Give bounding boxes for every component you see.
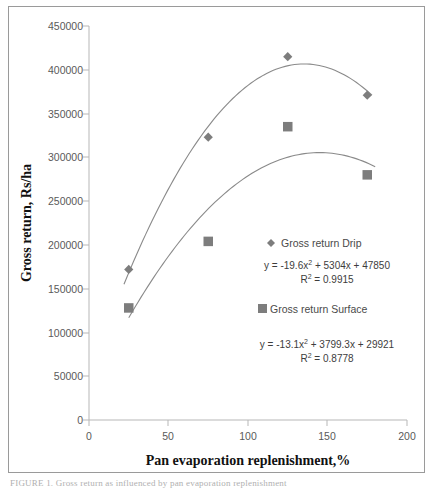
y-tick-100000: 100000 [48,327,83,339]
legend-label-surface: Gross return Surface [270,303,368,315]
y-axis-tick-labels: 450000 400000 350000 300000 250000 20000… [48,20,83,426]
x-tick-0: 0 [86,430,92,442]
y-tick-150000: 150000 [48,283,83,295]
trendline-surface [129,153,375,318]
y-tick-450000: 450000 [48,20,83,32]
x-tick-200: 200 [398,430,416,442]
legend-item-surface[interactable]: Gross return Surface [258,303,368,315]
data-point-drip [283,52,292,61]
square-marker-icon [258,304,267,313]
chart-svg: 450000 400000 350000 300000 250000 20000… [9,7,426,474]
diamond-marker-icon [267,239,275,247]
chart-plot-area: 450000 400000 350000 300000 250000 20000… [9,7,424,472]
x-tick-50: 50 [162,430,174,442]
legend-item-drip[interactable]: Gross return Drip [267,237,362,249]
figure-frame: 450000 400000 350000 300000 250000 20000… [8,6,425,473]
equation-surface-r2: R2 = 0.8778 [300,352,354,364]
equation-surface-text: y = -13.1x2 + 3799.3x + 29921 [260,338,395,350]
y-tick-300000: 300000 [48,151,83,163]
data-point-surface [363,170,373,180]
equation-surface: y = -13.1x2 + 3799.3x + 29921 R2 = 0.877… [260,338,395,364]
y-tick-200000: 200000 [48,239,83,251]
equation-drip-r2: R2 = 0.9915 [300,273,354,285]
equation-drip-text: y = -19.6x2 + 5304x + 47850 [264,259,390,271]
x-axis-title: Pan evaporation replenishment,% [146,453,351,468]
y-axis [83,26,89,420]
y-tick-400000: 400000 [48,64,83,76]
y-tick-0: 0 [77,414,83,426]
data-point-surface [124,303,134,313]
data-point-drip [204,133,213,142]
y-axis-title: Gross return, Rs/ha [19,164,34,282]
x-tick-100: 100 [239,430,257,442]
data-point-surface [204,237,214,247]
trendline-drip [124,64,372,284]
data-point-drip [363,91,372,100]
y-tick-250000: 250000 [48,195,83,207]
x-axis-tick-labels: 0 50 100 150 200 [86,430,416,442]
data-point-surface [283,122,293,132]
equation-drip: y = -19.6x2 + 5304x + 47850 R2 = 0.9915 [264,259,390,285]
x-axis [89,420,407,426]
x-tick-150: 150 [318,430,336,442]
figure-caption: FIGURE 1. Gross return as influenced by … [10,478,430,492]
y-tick-350000: 350000 [48,108,83,120]
y-tick-50000: 50000 [54,370,83,382]
legend-label-drip: Gross return Drip [281,237,362,249]
